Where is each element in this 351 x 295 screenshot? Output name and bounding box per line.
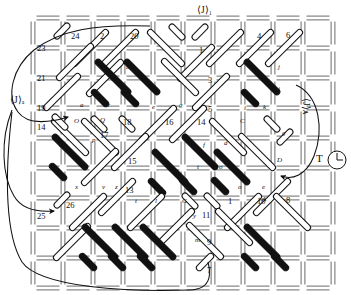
clock-icon: [328, 151, 346, 169]
black-rod: [270, 252, 290, 272]
node-number: 20: [130, 32, 139, 41]
temperature-label: T: [316, 153, 323, 164]
node-number: 13: [125, 186, 134, 195]
rod-letter: w: [55, 170, 60, 177]
rod-letter: d: [124, 88, 128, 95]
rod-letter: t: [197, 164, 199, 171]
node-number: 21: [37, 74, 46, 83]
rod-letter: s: [160, 185, 163, 192]
rod-letter: e: [152, 104, 155, 111]
rod-letter: Q: [100, 117, 105, 124]
rod-letter: t: [135, 198, 137, 205]
black-rod: [240, 252, 260, 272]
rod-letter: j: [278, 64, 280, 71]
black-rod: [181, 133, 219, 171]
white-rod: [195, 252, 215, 272]
white-rod: [263, 115, 281, 133]
node-number: 14: [37, 123, 46, 132]
node-number: 9: [207, 238, 211, 247]
node-number: 18: [123, 118, 132, 127]
white-rod: [185, 221, 225, 261]
rod-letter: p: [92, 137, 96, 144]
rod-letter: a: [80, 102, 84, 109]
rod-letter: o: [219, 164, 223, 171]
black-rod: [243, 58, 281, 96]
rod-letter: e: [262, 184, 265, 191]
node-number: 23: [37, 44, 46, 53]
rod-letter: b: [126, 64, 130, 71]
rod-letter: k: [263, 104, 266, 111]
rod-letter: f: [203, 142, 205, 149]
rod-letter: d: [224, 140, 228, 147]
rod-letter: G: [182, 198, 187, 205]
node-number: 7: [207, 266, 211, 275]
node-number: 16: [165, 118, 174, 127]
node-number: 17: [100, 131, 109, 140]
left-axis-label: ⟨J⟩ₐ: [10, 96, 24, 106]
node-number: 19: [37, 104, 46, 113]
rod-letter: D: [277, 157, 282, 164]
white-rod: [203, 192, 221, 210]
rod-letter: i: [244, 105, 246, 112]
node-number: 1: [199, 46, 203, 55]
node-number: 8: [286, 196, 290, 205]
rod-letter: z: [115, 184, 118, 191]
rod-letter: y: [193, 213, 196, 220]
node-number: 15: [128, 157, 137, 166]
white-rod: [191, 23, 209, 41]
rod-letter: m: [195, 237, 200, 244]
rod-letter: C: [240, 118, 245, 125]
node-number: 25: [37, 212, 46, 221]
rod-letter: u: [59, 142, 63, 149]
node-number: 3: [208, 76, 212, 85]
rod-letter: O: [74, 118, 79, 125]
rod-letter: q: [186, 185, 190, 192]
rod-letter: l: [155, 198, 157, 205]
node-number: 2: [100, 32, 104, 41]
right-axis-label: ⟨J⟩ᴀ: [301, 98, 311, 114]
white-rod: [168, 23, 186, 41]
rod-letter: v: [102, 184, 105, 191]
rod-letter: x: [75, 184, 78, 191]
node-number: 24: [71, 32, 80, 41]
node-number: 11: [202, 211, 210, 220]
rod-letter: g: [282, 130, 286, 137]
diagram-canvas: [0, 0, 351, 295]
node-number: 4: [257, 32, 261, 41]
node-number: 14: [197, 118, 206, 127]
node-number: 1: [228, 197, 232, 206]
node-number: 6: [286, 31, 290, 40]
rod-letter: i: [278, 86, 280, 93]
node-number: 26: [66, 201, 75, 210]
node-number: 5: [208, 105, 212, 114]
rod-letter: A: [262, 196, 266, 203]
black-rod: [210, 176, 230, 196]
top-axis-label: ⟨J⟩₁: [197, 6, 212, 16]
rod-letter: o: [238, 184, 242, 191]
rod-letter: g: [179, 102, 183, 109]
rod-letter: c: [107, 102, 110, 109]
lattice-rod-network-diagram: ⟨J⟩₁ ⟨J⟩ₐ ⟨J⟩ᴀ T 23242201462131951418161…: [0, 0, 351, 295]
